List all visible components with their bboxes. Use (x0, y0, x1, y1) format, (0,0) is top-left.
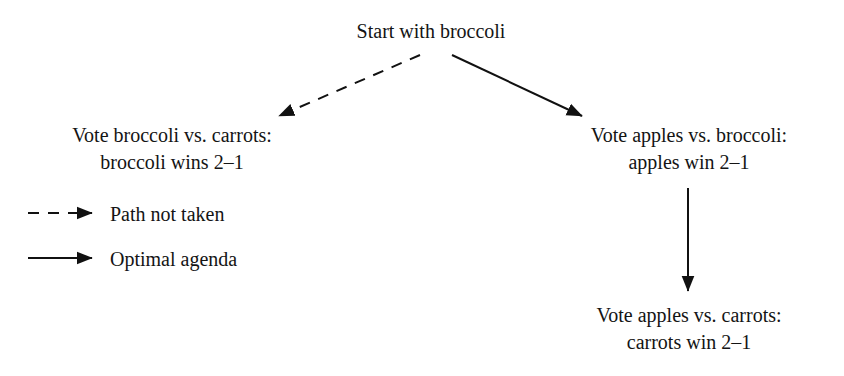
start-node: Start with broccoli (357, 18, 506, 45)
legend-optimal-agenda-label: Optimal agenda (110, 247, 237, 271)
node-text-line: broccoli wins 2–1 (72, 149, 272, 176)
node-text-line: Vote broccoli vs. carrots: (72, 122, 272, 149)
node-text-line: Start with broccoli (357, 18, 506, 45)
legend-path-not-taken-label: Path not taken (110, 202, 224, 226)
decision-tree-diagram: Start with broccoliVote broccoli vs. car… (0, 0, 844, 376)
bottom-vote-node: Vote apples vs. carrots:carrots win 2–1 (596, 302, 781, 356)
edge-start-to-left (279, 55, 420, 116)
node-text-line: Vote apples vs. carrots: (596, 302, 781, 329)
left-vote-node: Vote broccoli vs. carrots:broccoli wins … (72, 122, 272, 176)
node-text-line: carrots win 2–1 (596, 329, 781, 356)
right-vote-node: Vote apples vs. broccoli:apples win 2–1 (591, 122, 787, 176)
node-text-line: Vote apples vs. broccoli: (591, 122, 787, 149)
edge-start-to-right (452, 55, 582, 116)
node-text-line: apples win 2–1 (591, 149, 787, 176)
